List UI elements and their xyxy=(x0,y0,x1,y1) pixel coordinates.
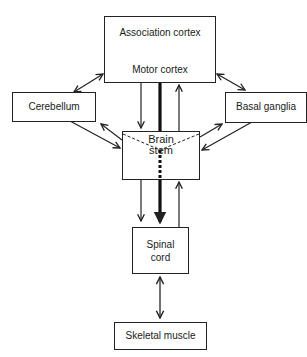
skeletal-muscle-label: Skeletal muscle xyxy=(114,330,207,342)
brain-stem-label-line2: stem xyxy=(122,144,200,156)
arrow-basal-to-brainstem xyxy=(202,122,252,150)
spinal-cord-label-line1: Spinal xyxy=(132,239,189,251)
spinal-cord-label-line2: cord xyxy=(132,252,189,264)
arrow-brainstem-to-basal xyxy=(200,124,222,137)
cerebellum-label: Cerebellum xyxy=(12,101,96,113)
association-cortex-label: Association cortex xyxy=(104,27,216,39)
arrow-cerebellum-to-brainstem xyxy=(70,121,120,148)
arrow-brainstem-to-cerebellum xyxy=(101,124,122,140)
basal-ganglia-label: Basal ganglia xyxy=(225,101,307,113)
arrow-cortex-cerebellum xyxy=(74,74,103,92)
arrow-cortex-basal-ganglia xyxy=(217,74,245,90)
motor-cortex-label: Motor cortex xyxy=(104,64,216,76)
